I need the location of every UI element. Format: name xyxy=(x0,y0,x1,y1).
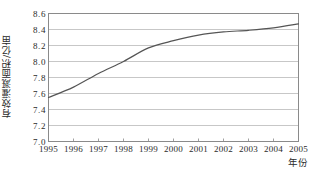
x-axis-title: 年份 xyxy=(288,155,308,169)
x-axis-tick-label: 1998 xyxy=(114,144,133,154)
x-axis-tick-label: 2004 xyxy=(264,144,283,154)
x-axis-tick-label: 2000 xyxy=(164,144,183,154)
x-axis-tick-label: 1999 xyxy=(139,144,158,154)
grid-lines xyxy=(49,14,299,142)
x-axis-tick-label: 1996 xyxy=(64,144,83,154)
data-line-series-1 xyxy=(49,24,299,98)
x-axis-tick-label: 2003 xyxy=(239,144,258,154)
x-axis-tick-label: 2002 xyxy=(214,144,233,154)
x-axis-tick-label: 2001 xyxy=(189,144,208,154)
x-axis-tick-label: 2005 xyxy=(289,144,308,154)
chart-container: 有效灌溉面积/亿亩 8.68.48.28.07.87.67.47.27.0 19… xyxy=(0,0,320,175)
x-axis-tick-label: 1995 xyxy=(39,144,58,154)
x-axis-tick-label: 1997 xyxy=(89,144,108,154)
